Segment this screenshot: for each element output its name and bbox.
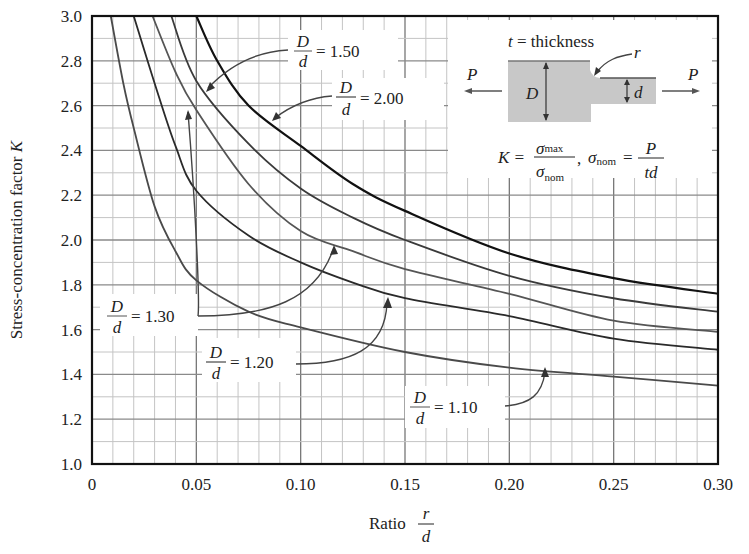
formula-td: td <box>644 163 658 182</box>
y-tick-label: 1.0 <box>61 455 82 474</box>
y-axis-label-var: K <box>7 139 26 153</box>
inset-d: d <box>634 83 643 102</box>
x-tick-label: 0.05 <box>181 475 211 494</box>
inset-P-left: P <box>466 65 477 84</box>
x-axis-label-den: d <box>422 527 431 546</box>
x-tick-label: 0.30 <box>703 475 733 494</box>
label-d110-eq: = 1.10 <box>434 398 478 417</box>
y-tick-label: 2.6 <box>61 97 82 116</box>
x-tick-label: 0.25 <box>599 475 629 494</box>
inset-r: r <box>634 43 641 62</box>
y-tick-label: 2.2 <box>61 186 82 205</box>
label-d200-den: d <box>342 100 351 119</box>
y-tick-label: 2.4 <box>61 141 83 160</box>
y-tick-label: 3.0 <box>61 7 82 26</box>
x-axis-label-text: Ratio <box>369 514 406 533</box>
y-tick-label: 1.8 <box>61 276 82 295</box>
y-tick-label: 2.8 <box>61 52 82 71</box>
y-tick-label: 1.4 <box>61 365 83 384</box>
y-axis-label: Stress-concentration factor K <box>7 139 26 339</box>
label-d130-den: d <box>113 318 122 337</box>
y-tick-label: 1.6 <box>61 321 82 340</box>
label-d130-num: D <box>110 297 124 316</box>
label-d200-num: D <box>339 78 353 97</box>
inset-thickness-text: = thickness <box>517 32 594 51</box>
formula-comma: , <box>577 149 581 168</box>
formula-eq: = <box>623 148 633 167</box>
label-d120-eq: = 1.20 <box>230 353 274 372</box>
label-d150-den: d <box>299 52 308 71</box>
label-d130-eq: = 1.30 <box>131 307 175 326</box>
x-tick-label: 0.20 <box>494 475 524 494</box>
arrow-150 <box>208 50 288 88</box>
x-tick-labels: 00.050.100.150.200.250.30 <box>88 475 733 494</box>
x-axis-label-num: r <box>423 504 430 523</box>
label-d110-num: D <box>413 388 427 407</box>
y-tick-labels: 1.01.21.41.61.82.02.22.42.62.83.0 <box>61 7 83 474</box>
label-d110-den: d <box>416 409 425 428</box>
label-d120-den: d <box>212 364 221 383</box>
label-d200-eq: = 2.00 <box>360 89 404 108</box>
label-d120-num: D <box>209 343 223 362</box>
formula-P: P <box>645 139 656 158</box>
arrowhead-130b <box>185 110 192 120</box>
label-d150-eq: = 1.50 <box>316 42 360 61</box>
y-axis-label-text: Stress-concentration factor <box>7 152 26 339</box>
inset-P-right: P <box>687 65 698 84</box>
arrow-120 <box>296 303 387 364</box>
x-axis-label: Ratio r d <box>369 504 434 546</box>
inset-thickness-var: t <box>508 32 514 51</box>
inset-D: D <box>525 84 539 103</box>
arrow-130-a <box>198 250 333 316</box>
formula-K: K = <box>497 148 525 167</box>
label-d150-num: D <box>296 32 310 51</box>
arrow-200 <box>275 96 332 118</box>
inset-thickness: t = thickness <box>508 32 594 51</box>
arrow-110 <box>505 372 545 406</box>
y-tick-label: 1.2 <box>61 410 82 429</box>
x-tick-label: 0.10 <box>286 475 316 494</box>
x-tick-label: 0 <box>88 475 97 494</box>
y-tick-label: 2.0 <box>61 231 82 250</box>
stress-concentration-chart: 1.01.21.41.61.82.02.22.42.62.83.0 00.050… <box>0 0 749 554</box>
x-tick-label: 0.15 <box>390 475 420 494</box>
